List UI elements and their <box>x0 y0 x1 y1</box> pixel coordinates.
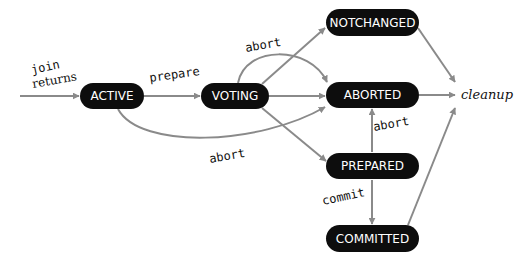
node-prepared-label: PREPARED <box>341 159 404 173</box>
edge-voting-aborted-curved <box>238 54 327 83</box>
node-committed: COMMITTED <box>326 225 419 252</box>
edge-labels: join returns prepare abort abort abort c… <box>30 35 410 208</box>
edge-voting-prepared <box>262 108 326 161</box>
label-voting-abort: abort <box>244 35 282 55</box>
node-active-label: ACTIVE <box>90 89 133 103</box>
label-prepare: prepare <box>148 64 200 85</box>
edge-notchanged-cleanup <box>418 28 455 82</box>
label-prepared-abort: abort <box>372 114 410 134</box>
node-committed-label: COMMITTED <box>336 232 409 246</box>
node-aborted: ABORTED <box>326 82 419 108</box>
node-voting: VOTING <box>201 83 269 109</box>
label-active-abort: abort <box>208 146 246 166</box>
node-active: ACTIVE <box>80 83 144 109</box>
state-diagram: join returns prepare abort abort abort c… <box>0 0 527 260</box>
node-aborted-label: ABORTED <box>344 88 401 102</box>
label-commit: commit <box>321 185 366 208</box>
node-prepared: PREPARED <box>326 153 419 179</box>
edge-active-aborted <box>118 107 325 138</box>
node-voting-label: VOTING <box>212 89 259 103</box>
node-notchanged: NOTCHANGED <box>326 9 419 36</box>
terminal-cleanup: cleanup <box>461 87 514 102</box>
node-notchanged-label: NOTCHANGED <box>330 16 416 30</box>
